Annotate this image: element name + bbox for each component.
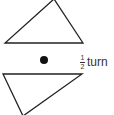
center-of-rotation-dot	[40, 56, 48, 64]
half-turn-label: 1 2 turn	[80, 54, 108, 70]
fraction-numerator: 1	[81, 54, 85, 61]
fraction: 1 2	[80, 54, 85, 70]
original-triangle	[5, 0, 83, 43]
fraction-denominator: 2	[81, 63, 85, 70]
rotated-triangle	[3, 74, 82, 115]
turn-text: turn	[87, 55, 108, 69]
